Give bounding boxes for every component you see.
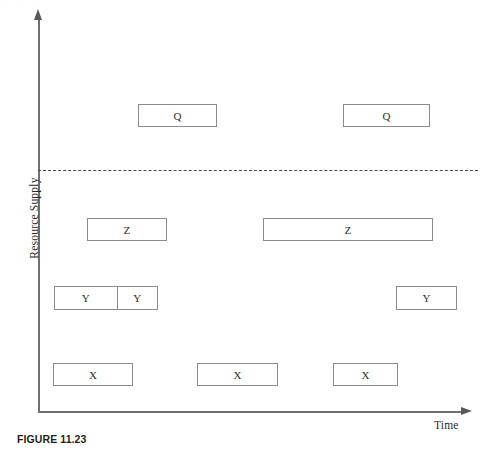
task-block-x: X: [197, 363, 278, 386]
figure-resource-supply-over-time: · · · Resource Supply Time QQZZYYYXXX FI…: [0, 0, 491, 464]
scan-artifact-strip: · · ·: [0, 0, 491, 8]
arrow-right-icon: [461, 407, 472, 415]
task-block-q: Q: [138, 104, 217, 127]
task-block-q: Q: [343, 104, 430, 127]
task-segment-y: Y: [55, 287, 117, 309]
x-axis-line: [38, 411, 463, 413]
task-block-z: Z: [87, 218, 167, 241]
y-axis-label: Resource Supply: [28, 148, 40, 288]
task-block-y: YY: [54, 286, 158, 310]
task-block-z: Z: [263, 218, 433, 241]
arrow-up-icon: [34, 9, 42, 20]
task-block-y: Y: [396, 286, 457, 310]
task-block-x: X: [53, 363, 133, 386]
capacity-threshold-line: [38, 170, 478, 171]
task-block-x: X: [333, 363, 398, 386]
x-axis-label: Time: [434, 419, 459, 431]
figure-caption: FIGURE 11.23: [17, 433, 86, 445]
task-segment-y: Y: [117, 287, 157, 309]
